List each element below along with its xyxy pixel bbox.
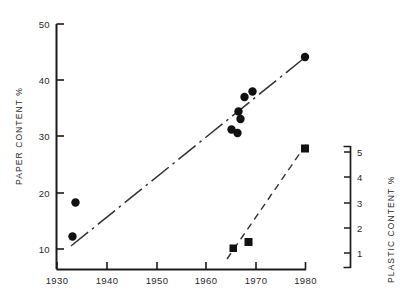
x-tick-label-1980: 1980: [294, 275, 317, 286]
data-point-plastic: [230, 245, 238, 253]
right-tick-label-4: 4: [357, 172, 363, 183]
left-tick-label-50: 50: [39, 19, 50, 30]
x-tick-label-1930: 1930: [46, 275, 69, 286]
x-tick-label-1940: 1940: [96, 275, 119, 286]
left-tick-label-20: 20: [39, 188, 50, 199]
left-tick-label-40: 40: [39, 75, 50, 86]
scatter-chart: 50 40 30 20 10 PAPER CONTENT % 1930 1940…: [0, 0, 401, 307]
data-point-paper: [71, 198, 79, 206]
left-tick-label-10: 10: [39, 244, 50, 255]
x-tick-label-1960: 1960: [195, 275, 218, 286]
left-tick-label-30: 30: [39, 131, 50, 142]
right-tick-label-2: 2: [357, 223, 363, 234]
data-point-paper: [233, 129, 241, 137]
x-tick-label-1950: 1950: [146, 275, 169, 286]
y-axis-title: PAPER CONTENT %: [14, 87, 24, 185]
x-tick-label-1970: 1970: [245, 275, 268, 286]
chart-canvas: 50 40 30 20 10 PAPER CONTENT % 1930 1940…: [0, 0, 401, 307]
right-tick-label-5: 5: [357, 147, 363, 158]
data-point-paper: [68, 232, 76, 240]
data-point-paper: [301, 53, 309, 61]
data-point-paper: [248, 87, 256, 95]
data-point-plastic: [301, 145, 309, 153]
data-point-paper: [240, 93, 248, 101]
y2-axis-title: PLASTIC CONTENT %: [386, 176, 396, 283]
data-point-paper: [236, 115, 244, 123]
right-tick-label-1: 1: [357, 248, 363, 259]
data-point-plastic: [245, 238, 253, 246]
chart-background: [0, 0, 401, 307]
data-point-paper: [234, 107, 242, 115]
right-tick-label-3: 3: [357, 198, 363, 209]
